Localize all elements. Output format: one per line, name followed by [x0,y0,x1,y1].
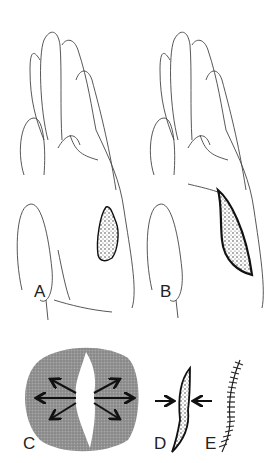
hand-wound-closure-figure: A B C D E [0,0,275,463]
panel-label-d: D [154,435,166,452]
panel-label-e: E [205,435,216,452]
sutured-incision-e [219,360,243,452]
undermining-diagram-c [25,348,139,452]
suture-marks [219,362,243,447]
hand-b-drawing [147,32,263,318]
panel-label-c: C [23,435,35,452]
figure-drawing [0,0,275,463]
wound-a-irregular [97,207,118,261]
wound-b-ellipse [218,190,252,275]
panel-label-a: A [34,283,45,300]
hand-a-drawing [17,32,134,320]
panel-label-b: B [160,283,171,300]
